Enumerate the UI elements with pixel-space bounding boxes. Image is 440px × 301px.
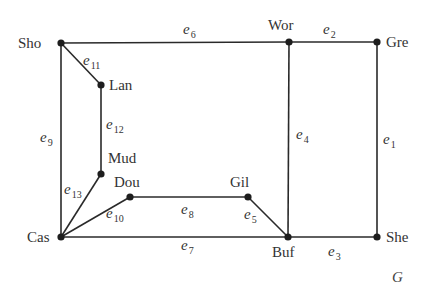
vertex-sho xyxy=(57,39,64,46)
edge-e4 xyxy=(288,42,289,237)
edge-label-e13: e13 xyxy=(64,181,82,200)
vertex-she xyxy=(373,233,380,240)
vertex-cas xyxy=(57,233,64,240)
vertex-label-dou: Dou xyxy=(114,174,140,190)
vertex-mud xyxy=(97,170,104,177)
edge-label-e4: e4 xyxy=(296,126,309,145)
vertex-label-gil: Gil xyxy=(230,174,249,190)
edge-label-e6: e6 xyxy=(183,21,196,40)
vertex-buf xyxy=(284,233,291,240)
vertex-label-she: She xyxy=(386,229,409,245)
edge-e6 xyxy=(61,42,289,43)
edge-label-e1: e1 xyxy=(383,131,396,150)
vertex-label-mud: Mud xyxy=(108,150,137,166)
edge-label-e10: e10 xyxy=(106,205,124,224)
vertex-label-sho: Sho xyxy=(18,35,41,51)
vertex-gre xyxy=(373,38,380,45)
vertex-labels-layer: ShoWorGreLanMudDouGilCasBufShe xyxy=(18,17,409,260)
vertex-label-gre: Gre xyxy=(386,34,409,50)
vertex-lan xyxy=(97,81,104,88)
vertex-label-lan: Lan xyxy=(109,77,133,93)
vertex-label-wor: Wor xyxy=(268,17,293,33)
vertex-dou xyxy=(126,193,133,200)
edge-label-e12: e12 xyxy=(106,116,124,135)
graph-name-label: G xyxy=(392,269,403,285)
edge-label-e9: e9 xyxy=(40,129,53,148)
vertex-label-cas: Cas xyxy=(27,229,50,245)
edge-label-e5: e5 xyxy=(244,206,257,225)
edge-labels-layer: e1e2e3e4e5e6e7e8e9e10e11e12e13 xyxy=(40,21,396,262)
edge-label-e3: e3 xyxy=(328,243,341,262)
vertex-gil xyxy=(244,193,251,200)
edge-label-e8: e8 xyxy=(181,201,194,220)
edge-label-e7: e7 xyxy=(181,237,194,256)
vertex-label-buf: Buf xyxy=(272,244,295,260)
vertex-wor xyxy=(285,38,292,45)
graph-diagram: e1e2e3e4e5e6e7e8e9e10e11e12e13 ShoWorGre… xyxy=(0,0,440,301)
edge-label-e2: e2 xyxy=(323,21,336,40)
